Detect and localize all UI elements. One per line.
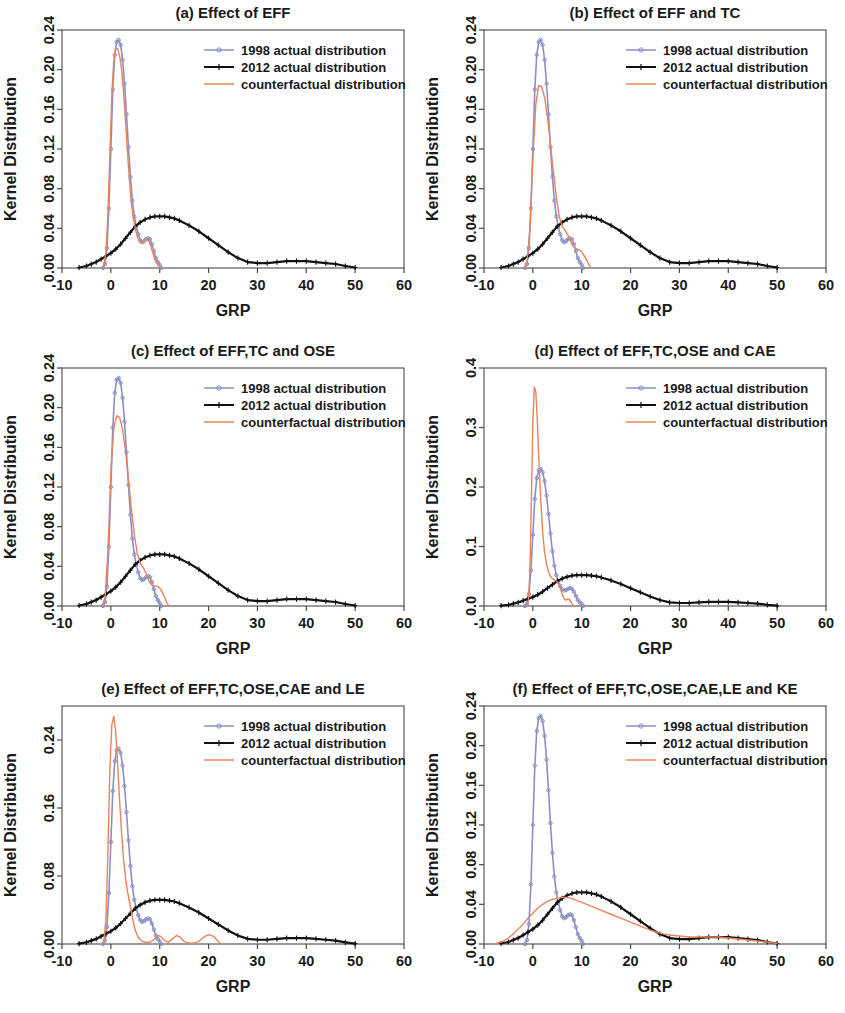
series-marker (148, 553, 152, 558)
y-tick-label: 0.20 (41, 56, 57, 84)
y-tick-label: 0.04 (463, 214, 479, 242)
series-marker (324, 937, 328, 942)
series-marker (609, 578, 613, 583)
series-marker (687, 260, 691, 265)
chart-panel-a: (a) Effect of EFF-1001020304050600.000.0… (0, 0, 422, 338)
series-marker (172, 554, 176, 559)
y-axis-label: Kernel Distribution (424, 77, 441, 221)
series-marker (736, 259, 740, 264)
x-tick-label: 0 (529, 277, 537, 293)
x-tick-label: 30 (671, 953, 687, 969)
legend-label: 1998 actual distribution (241, 381, 386, 396)
series-marker (506, 602, 510, 607)
series-marker (765, 602, 769, 607)
series-marker (570, 215, 574, 220)
series-marker (304, 258, 308, 263)
x-tick-label: 20 (201, 615, 217, 631)
y-tick-label: 0.24 (41, 726, 57, 754)
legend-marker (216, 402, 222, 408)
panel-title: (d) Effect of EFF,TC,OSE and CAE (535, 342, 776, 359)
y-axis-label: Kernel Distribution (424, 415, 441, 559)
series-marker (285, 935, 289, 940)
panel-title: (a) Effect of EFF (176, 4, 291, 21)
series-line-3 (102, 416, 169, 606)
series-marker (575, 890, 579, 895)
x-tick-label: 20 (623, 615, 639, 631)
series-marker (246, 936, 250, 941)
series-marker (153, 552, 157, 557)
series-marker (334, 261, 338, 266)
legend-label: 1998 actual distribution (241, 43, 386, 58)
series-marker (580, 890, 584, 895)
y-tick-label: 0.12 (41, 473, 57, 501)
y-tick-label: 0.20 (41, 394, 57, 422)
series-marker (285, 596, 289, 601)
series-marker (658, 597, 662, 602)
y-tick-label: 0.16 (41, 95, 57, 123)
y-tick-label: 0.16 (463, 771, 479, 799)
series-line-1 (103, 40, 161, 268)
y-axis-label: Kernel Distribution (2, 415, 19, 559)
series-marker (775, 265, 779, 270)
x-tick-label: 0 (107, 277, 115, 293)
x-tick-label: 50 (769, 615, 785, 631)
series-marker (521, 598, 525, 603)
series-marker (304, 596, 308, 601)
series-marker (585, 890, 589, 895)
y-tick-label: 0.16 (463, 95, 479, 123)
legend-label: 2012 actual distribution (663, 736, 808, 751)
series-marker (677, 600, 681, 605)
series-marker (294, 596, 298, 601)
x-tick-label: 20 (201, 277, 217, 293)
legend-label: 1998 actual distribution (663, 43, 808, 58)
x-tick-label: -10 (474, 615, 495, 631)
series-marker (575, 572, 579, 577)
legend-label: counterfactual distribution (241, 415, 406, 430)
series-marker (89, 599, 93, 604)
x-tick-label: 60 (396, 953, 412, 969)
legend-label: 2012 actual distribution (241, 60, 386, 75)
series-marker (697, 935, 701, 940)
x-tick-label: 40 (298, 953, 314, 969)
x-tick-label: 60 (396, 277, 412, 293)
y-tick-label: 0.08 (41, 175, 57, 203)
series-marker (353, 941, 357, 946)
series-line-1 (103, 378, 161, 606)
series-marker (511, 601, 515, 606)
x-tick-label: 10 (574, 277, 590, 293)
panel-title: (f) Effect of EFF,TC,OSE,CAE,LE and KE (512, 680, 797, 697)
series-marker (585, 214, 589, 219)
series-marker (594, 216, 598, 221)
series-marker (77, 603, 81, 608)
y-tick-label: 0.04 (41, 552, 57, 580)
panel-title: (c) Effect of EFF,TC and OSE (131, 342, 335, 359)
x-tick-label: 40 (720, 277, 736, 293)
y-axis-label: Kernel Distribution (2, 77, 19, 221)
series-marker (158, 552, 162, 557)
legend-label: 1998 actual distribution (663, 719, 808, 734)
legend-label: counterfactual distribution (663, 753, 828, 768)
y-tick-label: 0.00 (463, 254, 479, 282)
series-marker (511, 937, 515, 942)
legend-label: 1998 actual distribution (241, 719, 386, 734)
y-tick-label: 0.04 (463, 890, 479, 918)
y-tick-label: 0.16 (41, 794, 57, 822)
series-marker (275, 259, 279, 264)
series-marker (324, 260, 328, 265)
y-tick-label: 0.08 (463, 175, 479, 203)
series-marker (565, 574, 569, 579)
x-axis-label: GRP (638, 640, 673, 657)
series-marker (172, 899, 176, 904)
series-marker (716, 258, 720, 263)
y-tick-label: 0.12 (41, 135, 57, 163)
series-marker (148, 898, 152, 903)
series-marker (589, 891, 593, 896)
y-tick-label: 0.00 (463, 930, 479, 958)
y-tick-label: 0.00 (41, 592, 57, 620)
y-tick-label: 0.0 (463, 596, 479, 616)
x-tick-label: 40 (298, 615, 314, 631)
series-marker (736, 600, 740, 605)
x-tick-label: 40 (298, 277, 314, 293)
legend-marker (638, 64, 644, 70)
x-axis-label: GRP (638, 978, 673, 995)
